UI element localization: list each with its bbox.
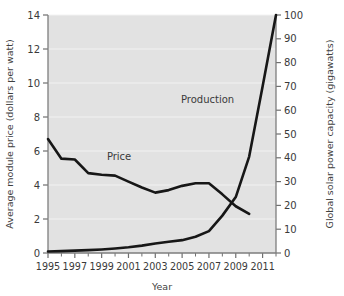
- tick-label: 1995: [36, 261, 60, 272]
- tick-label: 2011: [250, 261, 274, 272]
- tick-label: 6: [34, 146, 40, 157]
- tick-label: 1999: [89, 261, 113, 272]
- tick-label: 0: [284, 248, 290, 259]
- tick-label: 30: [284, 176, 297, 187]
- tick-label: 90: [284, 33, 297, 44]
- tick-label: 2001: [116, 261, 140, 272]
- tick-label: 10: [27, 78, 40, 89]
- tick-label: 2009: [224, 261, 248, 272]
- tick-label: 12: [27, 44, 40, 55]
- tick-label: 0: [34, 248, 40, 259]
- tick-label: 2007: [197, 261, 221, 272]
- y-axis-title: Average module price (dollars per watt): [4, 39, 15, 228]
- price-series-label: Price: [107, 151, 131, 162]
- right-axis-tick-labels: 0102030405060708090100: [284, 10, 303, 259]
- production-series-label: Production: [181, 94, 234, 105]
- x-axis-tick-labels: 199519971999200120032005200720092011: [36, 261, 275, 272]
- tick-label: 40: [284, 152, 297, 163]
- solar-price-production-chart: 02468101214 0102030405060708090100 19951…: [0, 0, 344, 296]
- chart-svg: 02468101214 0102030405060708090100 19951…: [0, 0, 344, 296]
- tick-label: 20: [284, 200, 297, 211]
- tick-label: 2: [34, 214, 40, 225]
- plot-area-background: [48, 15, 276, 253]
- tick-label: 1997: [63, 261, 87, 272]
- tick-label: 14: [27, 10, 40, 21]
- x-axis-ticks: [48, 253, 276, 258]
- tick-label: 4: [34, 180, 40, 191]
- tick-label: 2003: [143, 261, 167, 272]
- tick-label: 60: [284, 105, 297, 116]
- tick-label: 100: [284, 10, 303, 21]
- right-axis-ticks: [276, 15, 281, 253]
- x-axis-title: Year: [151, 281, 172, 292]
- tick-label: 70: [284, 81, 297, 92]
- left-axis-ticks: [43, 15, 48, 253]
- left-axis-tick-labels: 02468101214: [27, 10, 40, 259]
- tick-label: 50: [284, 129, 297, 140]
- y2-axis-title: Global solar power capacity (gigawatts): [324, 40, 335, 229]
- tick-label: 80: [284, 57, 297, 68]
- tick-label: 10: [284, 224, 297, 235]
- tick-label: 2005: [170, 261, 194, 272]
- tick-label: 8: [34, 112, 40, 123]
